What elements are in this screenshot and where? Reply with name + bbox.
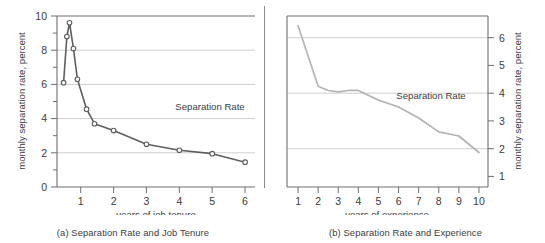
panel-b-plot: 1 2 3 4 5 6 12345678910 Separation Rate …	[266, 0, 545, 215]
panel-a-series-separation-rate	[61, 21, 247, 165]
panel-a-ytick-4: 4	[41, 112, 47, 124]
panel-a-ytick-10: 10	[35, 10, 47, 22]
panel-b-xtick-10: 10	[473, 195, 485, 207]
panel-b-ytick-2: 2	[499, 143, 505, 155]
panel-a-xtick-5: 5	[209, 195, 215, 207]
panel-a-xtick-6: 6	[242, 195, 248, 207]
data-point	[210, 151, 215, 156]
panel-b-xtick-4: 4	[355, 195, 361, 207]
panel-a-caption: (a) Separation Rate and Job Tenure	[0, 227, 266, 238]
data-point	[67, 21, 72, 26]
panel-b-xtick-1: 1	[295, 195, 301, 207]
panel-b-xtick-6: 6	[396, 195, 402, 207]
panel-a-y-axis: 0 2 4 6 8 10	[35, 10, 57, 193]
panel-b: 1 2 3 4 5 6 12345678910 Separation Rate …	[266, 0, 545, 243]
data-point	[144, 142, 149, 147]
data-point	[61, 80, 66, 85]
panel-a: 0 2 4 6 8 10 1 2 3 4 5 6	[0, 0, 266, 243]
panel-b-xtick-5: 5	[376, 195, 382, 207]
panel-b-ytick-5: 5	[499, 59, 505, 71]
panel-b-ytick-4: 4	[499, 87, 505, 99]
panel-b-series-label: Separation Rate	[396, 90, 465, 101]
panel-a-series-label: Separation Rate	[175, 101, 244, 112]
panel-a-plot: 0 2 4 6 8 10 1 2 3 4 5 6	[0, 0, 266, 215]
panel-a-xtick-4: 4	[176, 195, 182, 207]
data-point	[65, 34, 70, 39]
data-point	[84, 107, 89, 112]
panel-divider	[264, 6, 265, 188]
panel-b-xlabel: years of experience	[345, 209, 429, 215]
panel-b-y-axis: 1 2 3 4 5 6	[488, 32, 505, 183]
panel-a-ytick-8: 8	[41, 44, 47, 56]
data-point	[243, 160, 248, 165]
panel-a-x-axis: 1 2 3 4 5 6	[78, 187, 248, 207]
panel-a-xtick-2: 2	[111, 195, 117, 207]
panel-a-ytick-2: 2	[41, 147, 47, 159]
panel-b-xtick-9: 9	[456, 195, 462, 207]
panel-b-x-axis: 12345678910	[295, 187, 485, 207]
panel-b-ylabel: monthly separation rate, percent	[512, 32, 523, 170]
panel-a-xlabel: years of job tenure	[116, 209, 195, 215]
panel-a-xtick-1: 1	[78, 195, 84, 207]
panel-a-ylabel: monthly separation rate, percent	[16, 32, 27, 170]
data-point	[111, 128, 116, 133]
panel-b-frame	[287, 16, 488, 187]
data-point	[75, 77, 80, 82]
data-point	[92, 121, 97, 126]
panel-b-ytick-6: 6	[499, 32, 505, 44]
figure-container: 0 2 4 6 8 10 1 2 3 4 5 6	[0, 0, 545, 243]
panel-b-xtick-2: 2	[315, 195, 321, 207]
panel-b-xtick-7: 7	[416, 195, 422, 207]
data-point	[71, 46, 76, 51]
panel-a-ytick-6: 6	[41, 78, 47, 90]
panel-b-ytick-1: 1	[499, 170, 505, 182]
panel-b-ytick-3: 3	[499, 115, 505, 127]
panel-b-caption: (b) Separation Rate and Experience	[266, 227, 545, 238]
panel-b-xtick-3: 3	[335, 195, 341, 207]
panel-a-ytick-0: 0	[41, 181, 47, 193]
panel-b-xtick-8: 8	[436, 195, 442, 207]
panel-a-xtick-3: 3	[143, 195, 149, 207]
data-point	[177, 148, 182, 153]
